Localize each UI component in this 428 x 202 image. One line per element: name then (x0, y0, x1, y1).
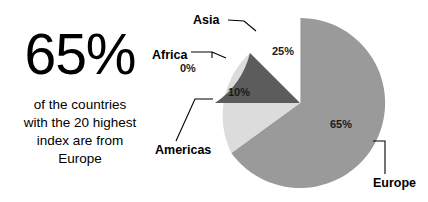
pie-chart-area: 25% 10% 65% 0% Asia Africa Americas Euro… (0, 0, 428, 202)
pie-value-label-americas: 10% (228, 86, 250, 98)
leader-line-asia (228, 20, 256, 31)
pie-category-label-asia: Asia (193, 13, 219, 27)
pie-category-label-europe: Europe (373, 176, 416, 190)
leader-line-europe (373, 141, 385, 174)
leader-line-americas (176, 99, 213, 141)
pie-chart-svg (0, 0, 428, 202)
pie-value-label-asia: 25% (272, 45, 294, 57)
leader-line-africa (191, 52, 226, 58)
pie-category-label-africa: Africa (152, 48, 187, 62)
pie-value-label-europe: 65% (330, 118, 352, 130)
pie-category-label-americas: Americas (155, 143, 211, 157)
pie-value-label-africa: 0% (180, 62, 196, 74)
pie-chart-figure: 65% of the countries with the 20 highest… (0, 0, 428, 202)
